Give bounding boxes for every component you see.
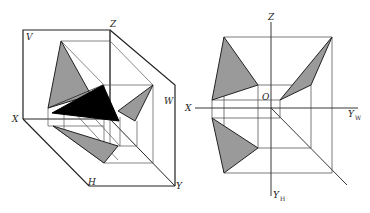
orthographic-view xyxy=(195,22,358,196)
h-projection-face xyxy=(53,126,118,163)
yh-yw-diagonal xyxy=(271,108,347,185)
w-plane-frame xyxy=(110,30,175,186)
side-view-triangle xyxy=(280,37,332,100)
w-plane-label: W xyxy=(164,96,174,106)
right-x-axis-label: X xyxy=(184,103,192,113)
right-z-axis-label: Z xyxy=(267,12,275,22)
x-axis-label: X xyxy=(11,114,19,124)
v-plane-label: V xyxy=(26,32,34,42)
yh-axis-label: Y xyxy=(273,190,280,200)
projection-diagram: V Z W X H Y Z O X xyxy=(0,0,370,213)
yw-axis-subscript: W xyxy=(355,114,362,121)
z-axis-label: Z xyxy=(109,19,117,29)
axonometric-view xyxy=(23,30,175,186)
w-projection-face xyxy=(118,85,153,121)
yw-axis-label: Y xyxy=(348,109,355,119)
yh-axis-subscript: H xyxy=(280,195,285,202)
origin-label: O xyxy=(262,92,270,102)
y-axis-label: Y xyxy=(176,181,183,191)
h-plane-label: H xyxy=(87,177,96,187)
top-view-triangle xyxy=(212,118,258,173)
front-view-triangle xyxy=(212,37,258,100)
